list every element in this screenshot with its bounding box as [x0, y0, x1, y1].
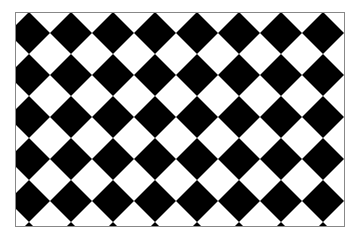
checkerboard-graphic: [15, 12, 345, 227]
diamond-checkerboard: [15, 12, 345, 227]
